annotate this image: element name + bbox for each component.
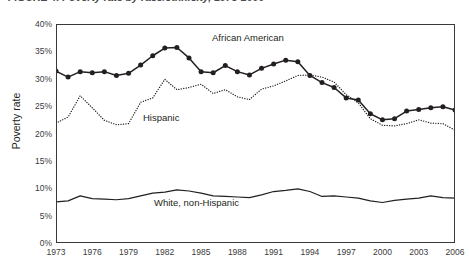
y-axis-tick-labels: 40%35%30%25%20%15%10%5%0% <box>24 18 52 249</box>
data-point-marker <box>235 69 240 74</box>
figure-title: FIGURE 4. Poverty rate by race/ethnicity… <box>8 0 448 3</box>
series-label-african-american: African American <box>212 32 284 43</box>
plot-area <box>56 24 455 243</box>
data-point-marker <box>453 107 456 112</box>
x-tick-label: 1973 <box>36 247 76 258</box>
data-point-marker <box>114 73 119 78</box>
series-line-white-non-hispanic <box>56 189 455 203</box>
y-tick-label: 20% <box>24 129 52 139</box>
x-tick-label: 1985 <box>181 247 221 258</box>
series-label-hispanic: Hispanic <box>143 112 179 123</box>
data-point-marker <box>283 58 288 63</box>
series-label-white: White, non-Hispanic <box>154 197 239 208</box>
data-point-marker <box>78 69 83 74</box>
y-tick-label: 10% <box>24 183 52 193</box>
x-tick-label: 1976 <box>72 247 112 258</box>
data-point-marker <box>66 75 71 80</box>
y-tick-label: 15% <box>24 156 52 166</box>
data-point-marker <box>368 111 373 116</box>
data-point-marker <box>90 70 95 75</box>
series-lines <box>56 24 455 243</box>
series-line-hispanic <box>56 75 455 130</box>
data-point-marker <box>271 61 276 66</box>
data-point-marker <box>332 85 337 90</box>
data-point-marker <box>259 66 264 71</box>
data-point-marker <box>247 72 252 77</box>
data-point-marker <box>428 105 433 110</box>
x-tick-label: 1979 <box>109 247 149 258</box>
y-axis-title: Poverty rate <box>10 76 22 166</box>
x-tick-label: 1988 <box>217 247 257 258</box>
data-point-marker <box>187 55 192 60</box>
x-tick-label: 1994 <box>290 247 330 258</box>
data-point-marker <box>223 63 228 68</box>
data-point-marker <box>138 63 143 68</box>
data-point-marker <box>150 53 155 58</box>
data-point-marker <box>380 117 385 122</box>
y-tick-label: 35% <box>24 46 52 56</box>
data-point-marker <box>295 59 300 64</box>
x-tick-label: 1982 <box>145 247 185 258</box>
y-tick-label: 25% <box>24 101 52 111</box>
y-tick-label: 5% <box>24 211 52 221</box>
data-point-marker <box>440 104 445 109</box>
data-point-marker <box>416 107 421 112</box>
x-tick-label: 2000 <box>362 247 402 258</box>
series-line-african-american <box>56 48 455 120</box>
data-point-marker <box>320 80 325 85</box>
x-tick-label: 1997 <box>326 247 366 258</box>
data-point-marker <box>126 71 131 76</box>
data-point-marker <box>392 116 397 121</box>
data-point-marker <box>211 70 216 75</box>
x-tick-label: 1991 <box>254 247 294 258</box>
x-tick-label: 2006 <box>435 247 469 258</box>
data-point-marker <box>162 46 167 51</box>
y-tick-label: 30% <box>24 74 52 84</box>
data-point-marker <box>102 69 107 74</box>
y-tick-label: 40% <box>24 19 52 29</box>
data-point-marker <box>174 45 179 50</box>
data-point-marker <box>404 109 409 114</box>
x-axis-tick-labels: 1973197619791982198519881991199419972000… <box>0 247 463 261</box>
x-tick-label: 2003 <box>399 247 439 258</box>
data-point-marker <box>344 95 349 100</box>
data-point-marker <box>199 69 204 74</box>
